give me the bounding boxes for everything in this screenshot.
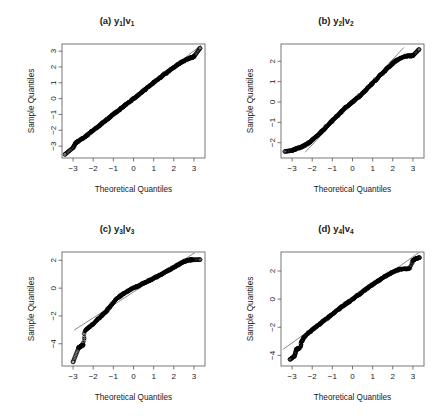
x-tick-label-b: 2: [391, 164, 396, 173]
qq-plot-b: (b) y2|v2−3−2−10123−2−1012Theoretical Qu…: [219, 0, 437, 208]
y-axis-label-d: Sample Quantiles: [246, 277, 255, 342]
y-tick-label-a: 3: [49, 48, 58, 53]
x-tick-label-c: 0: [131, 372, 136, 381]
y-tick-label-b: 2: [268, 59, 277, 64]
panel-b: (b) y2|v2−3−2−10123−2−1012Theoretical Qu…: [219, 0, 437, 208]
panel-a: (a) y1|v1−3−2−10123−3−2−10123Theoretical…: [0, 0, 218, 208]
x-tick-label-a: −1: [109, 164, 119, 173]
y-axis-label-a: Sample Quantiles: [27, 69, 36, 134]
y-tick-label-c: 2: [49, 258, 58, 263]
x-tick-label-d: 1: [370, 372, 375, 381]
y-tick-label-b: −2: [268, 138, 277, 148]
x-tick-label-a: 1: [151, 164, 156, 173]
qq-plot-d: (d) y4|v4−3−2−10123−4−202Theoretical Qua…: [219, 208, 437, 416]
x-tick-label-b: 0: [350, 164, 355, 173]
x-tick-label-c: −1: [109, 372, 119, 381]
figure-qq-plot-grid: (a) y1|v1−3−2−10123−3−2−10123Theoretical…: [0, 0, 437, 416]
x-tick-label-a: 3: [192, 164, 197, 173]
y-tick-label-d: −4: [268, 350, 277, 360]
y-tick-label-b: 0: [268, 99, 277, 104]
x-tick-label-b: −1: [328, 164, 338, 173]
x-tick-label-c: −2: [89, 372, 99, 381]
y-tick-label-d: 0: [268, 296, 277, 301]
x-tick-label-a: 0: [131, 164, 136, 173]
qq-plot-c: (c) y3|v3−3−2−10123−4−202Theoretical Qua…: [0, 208, 218, 416]
y-tick-label-c: −2: [49, 311, 58, 321]
panel-d: (d) y4|v4−3−2−10123−4−202Theoretical Qua…: [219, 208, 437, 416]
y-tick-label-a: −2: [49, 125, 58, 135]
plot-area-d: [283, 252, 421, 362]
x-tick-label-a: 2: [172, 164, 177, 173]
x-tick-label-b: −2: [308, 164, 318, 173]
y-tick-label-d: 2: [268, 268, 277, 273]
y-tick-label-b: 1: [268, 79, 277, 84]
y-axis-label-c: Sample Quantiles: [27, 277, 36, 342]
y-axis-label-b: Sample Quantiles: [246, 69, 255, 134]
x-tick-label-d: −3: [288, 372, 298, 381]
qq-plot-a: (a) y1|v1−3−2−10123−3−2−10123Theoretical…: [0, 0, 218, 208]
x-tick-label-c: −3: [69, 372, 79, 381]
x-tick-label-d: 0: [350, 372, 355, 381]
x-axis-label-a: Theoretical Quantiles: [95, 185, 172, 194]
x-tick-label-c: 2: [172, 372, 177, 381]
x-axis-label-d: Theoretical Quantiles: [314, 393, 391, 402]
x-tick-label-d: 2: [391, 372, 396, 381]
y-tick-label-d: −2: [268, 322, 277, 332]
plot-frame-c: [62, 252, 205, 366]
panel-title-d: (d) y4|v4: [318, 223, 354, 235]
panel-title-b: (b) y2|v2: [318, 15, 354, 27]
x-tick-label-b: 3: [411, 164, 416, 173]
y-tick-label-a: −1: [49, 109, 58, 119]
y-tick-label-a: −3: [49, 141, 58, 151]
y-tick-label-c: −4: [49, 339, 58, 349]
panel-c: (c) y3|v3−3−2−10123−4−202Theoretical Qua…: [0, 208, 218, 416]
y-tick-label-b: −1: [268, 117, 277, 127]
plot-area-b: [283, 48, 421, 154]
x-tick-label-c: 1: [151, 372, 156, 381]
y-tick-label-a: 2: [49, 64, 58, 69]
x-tick-label-a: −2: [89, 164, 99, 173]
plot-area-a: [63, 45, 202, 156]
panel-title-c: (c) y3|v3: [100, 223, 135, 235]
x-axis-label-c: Theoretical Quantiles: [95, 393, 172, 402]
panel-title-a: (a) y1|v1: [100, 15, 135, 27]
x-axis-label-b: Theoretical Quantiles: [314, 185, 391, 194]
x-tick-label-b: −3: [288, 164, 298, 173]
plot-area-c: [71, 253, 202, 364]
x-tick-label-c: 3: [192, 372, 197, 381]
y-tick-label-a: 0: [49, 96, 58, 101]
y-tick-label-a: 1: [49, 80, 58, 85]
x-tick-label-d: −2: [308, 372, 318, 381]
x-tick-label-d: −1: [328, 372, 338, 381]
x-tick-label-d: 3: [411, 372, 416, 381]
x-tick-label-a: −3: [69, 164, 79, 173]
x-tick-label-b: 1: [370, 164, 375, 173]
y-tick-label-c: 0: [49, 285, 58, 290]
